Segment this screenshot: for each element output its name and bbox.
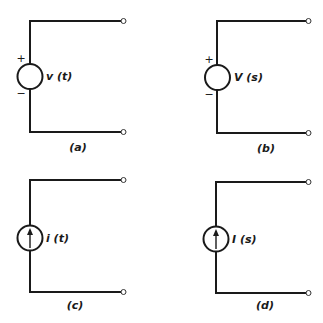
source-label: i (t) bbox=[46, 232, 69, 245]
top-wire bbox=[30, 180, 123, 225]
panel-b: + − V (s) (b) bbox=[204, 19, 311, 156]
terminal-bottom bbox=[121, 130, 126, 135]
polarity-minus: − bbox=[204, 88, 213, 101]
polarity-minus: − bbox=[16, 87, 25, 100]
panel-d: I (s) (d) bbox=[204, 180, 312, 313]
terminal-top bbox=[121, 19, 126, 24]
bottom-wire bbox=[216, 252, 308, 293]
bottom-wire bbox=[217, 90, 308, 133]
source-label: v (t) bbox=[46, 70, 72, 83]
bottom-wire bbox=[30, 89, 123, 132]
terminal-top bbox=[121, 178, 126, 183]
panel-c: i (t) (c) bbox=[18, 178, 127, 313]
terminal-bottom bbox=[306, 131, 311, 136]
bottom-wire bbox=[30, 251, 123, 292]
panel-caption: (b) bbox=[257, 142, 275, 155]
panel-a: + − v (t) (a) bbox=[16, 19, 126, 155]
panel-caption: (c) bbox=[67, 299, 84, 312]
voltage-source-icon bbox=[18, 64, 43, 89]
polarity-plus: + bbox=[16, 52, 25, 65]
voltage-source-icon bbox=[205, 65, 230, 90]
source-label: V (s) bbox=[234, 71, 263, 84]
top-wire bbox=[216, 182, 308, 226]
terminal-top bbox=[306, 180, 311, 185]
polarity-plus: + bbox=[204, 53, 213, 66]
terminal-top bbox=[306, 19, 311, 24]
terminal-bottom bbox=[306, 291, 311, 296]
circuit-figure: + − v (t) (a) + − V (s) (b) i (t) (c) bbox=[0, 0, 323, 323]
terminal-bottom bbox=[121, 290, 126, 295]
top-wire bbox=[30, 21, 123, 64]
panel-caption: (a) bbox=[69, 141, 86, 154]
source-label: I (s) bbox=[232, 233, 257, 246]
top-wire bbox=[217, 21, 308, 65]
panel-caption: (d) bbox=[256, 299, 274, 312]
